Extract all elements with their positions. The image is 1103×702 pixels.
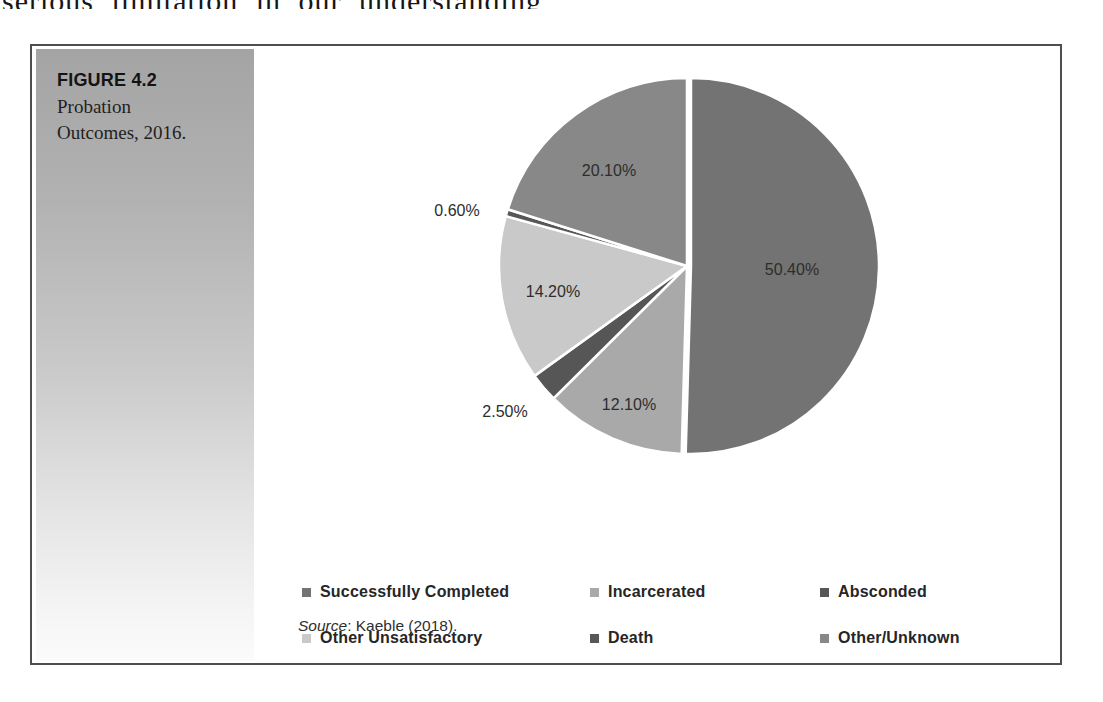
legend-label: Other/Unknown [838, 629, 960, 647]
pie-slice-label: 50.40% [765, 261, 819, 278]
pie-chart: 50.40%12.10%2.50%14.20%0.60%20.10% [422, 76, 892, 466]
legend-label: Absconded [838, 583, 927, 601]
legend-label: Successfully Completed [320, 583, 509, 601]
figure-caption-line2: Outcomes, 2016. [57, 120, 186, 146]
legend-item-death: Death [590, 629, 653, 647]
legend-label: Death [608, 629, 653, 647]
legend-item-other-unknown: Other/Unknown [820, 629, 960, 647]
figure-caption-panel: FIGURE 4.2 Probation Outcomes, 2016. [36, 49, 254, 661]
figure-caption: Probation Outcomes, 2016. [57, 94, 186, 146]
pie-slice-label: 12.10% [602, 396, 656, 413]
figure-number: FIGURE 4.2 [57, 70, 157, 91]
legend-item-absconded: Absconded [820, 583, 927, 601]
source-word: Source [298, 617, 347, 634]
source-citation-text: : Kaeble (2018). [347, 617, 457, 634]
legend-swatch-icon [590, 588, 599, 597]
source-citation: Source: Kaeble (2018). [298, 617, 457, 635]
pie-slice-label: 14.20% [526, 283, 580, 300]
legend-swatch-icon [590, 634, 599, 643]
cropped-body-text: serious limitation in our understanding [0, 0, 1103, 9]
legend-swatch-icon [302, 588, 311, 597]
legend-swatch-icon [820, 634, 829, 643]
figure-caption-line1: Probation [57, 94, 186, 120]
legend-item-successfully-completed: Successfully Completed [302, 583, 509, 601]
legend-swatch-icon [820, 588, 829, 597]
scanned-page: serious limitation in our understanding … [0, 0, 1103, 702]
pie-slice-label: 2.50% [482, 403, 527, 420]
legend-item-incarcerated: Incarcerated [590, 583, 706, 601]
body-text-fragment: serious limitation in our understanding [0, 0, 1103, 9]
legend-label: Incarcerated [608, 583, 706, 601]
pie-slice-label: 20.10% [582, 162, 636, 179]
pie-slice-label: 0.60% [434, 202, 479, 219]
figure-box: FIGURE 4.2 Probation Outcomes, 2016. 50.… [30, 44, 1062, 665]
